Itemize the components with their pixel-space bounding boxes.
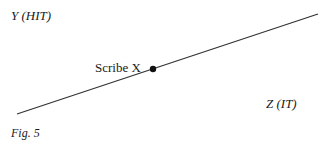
figure-caption: Fig. 5 xyxy=(11,126,40,141)
label-z-it: Z (IT) xyxy=(266,96,297,112)
label-scribe-x: Scribe X xyxy=(95,60,141,76)
label-y-hit: Y (HIT) xyxy=(11,8,51,24)
scribe-x-point xyxy=(150,66,156,72)
